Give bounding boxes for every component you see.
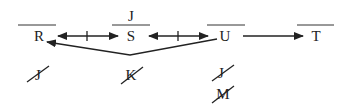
arrowhead-s bbox=[148, 32, 158, 40]
crossed-m-under-u: M bbox=[212, 86, 234, 103]
crossed-k-under-s: K bbox=[121, 67, 143, 84]
node-r: R bbox=[34, 28, 44, 44]
diagram-canvas: R S J U T J K J M bbox=[0, 0, 350, 110]
crossed-j-under-r: J bbox=[27, 66, 49, 83]
crossed-j-under-u: J bbox=[212, 65, 234, 81]
node-s: S bbox=[127, 28, 135, 44]
svg-text:K: K bbox=[126, 67, 137, 83]
node-t: T bbox=[311, 28, 320, 44]
node-u: U bbox=[220, 28, 231, 44]
node-s-annotation: J bbox=[128, 8, 134, 24]
arrowhead-r bbox=[57, 32, 67, 40]
